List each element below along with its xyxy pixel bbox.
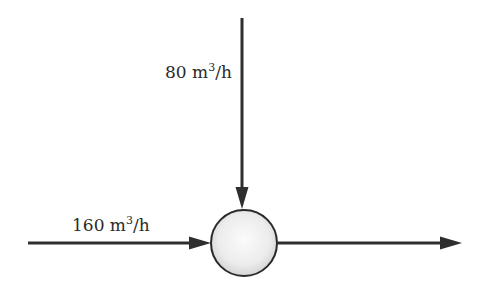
top-inflow-label: 80 m3/h — [165, 64, 232, 81]
diagram-graphics — [0, 0, 482, 288]
flow-diagram: 80 m3/h 160 m3/h — [0, 0, 482, 288]
left-inflow-arrow — [28, 237, 211, 250]
left-inflow-label: 160 m3/h — [72, 217, 150, 234]
arrowhead-right-icon — [440, 237, 462, 250]
arrowhead-down-icon — [236, 187, 249, 209]
top-inflow-arrow — [236, 18, 249, 209]
junction-node — [211, 210, 277, 276]
left-inflow-value: 160 — [72, 215, 104, 235]
top-inflow-value: 80 — [165, 62, 187, 82]
top-inflow-unit: m3/h — [192, 62, 232, 82]
arrowhead-right-icon — [189, 237, 211, 250]
right-outflow-arrow — [277, 237, 462, 250]
left-inflow-unit: m3/h — [110, 215, 150, 235]
